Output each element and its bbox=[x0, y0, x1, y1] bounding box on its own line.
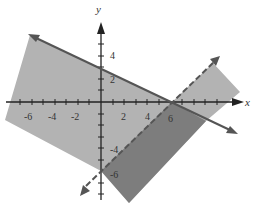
y-tick-label: -4 bbox=[110, 144, 118, 155]
graph-figure: y x -6 -4 -2 2 4 6 4 2 -4 -6 bbox=[0, 0, 255, 208]
x-tick-label: -6 bbox=[24, 111, 32, 122]
solid-line-arrow-lower-right-icon bbox=[226, 126, 238, 134]
y-axis-arrow-icon bbox=[97, 22, 105, 34]
y-tick-label: 4 bbox=[110, 50, 115, 61]
y-axis-label: y bbox=[95, 3, 101, 15]
y-tick-label: 2 bbox=[110, 74, 115, 85]
y-tick-label: -6 bbox=[110, 169, 118, 180]
x-axis-label: x bbox=[244, 96, 250, 108]
x-tick-label: -4 bbox=[48, 111, 56, 122]
x-axis-arrow-icon bbox=[232, 98, 244, 106]
x-tick-label: 2 bbox=[121, 111, 126, 122]
x-tick-label: 6 bbox=[168, 113, 173, 124]
coordinate-plane: y x -6 -4 -2 2 4 6 4 2 -4 -6 bbox=[0, 0, 255, 208]
x-tick-label: -2 bbox=[71, 111, 79, 122]
dashed-line-arrow-lower-left-icon bbox=[80, 185, 90, 196]
x-tick-label: 4 bbox=[145, 111, 150, 122]
